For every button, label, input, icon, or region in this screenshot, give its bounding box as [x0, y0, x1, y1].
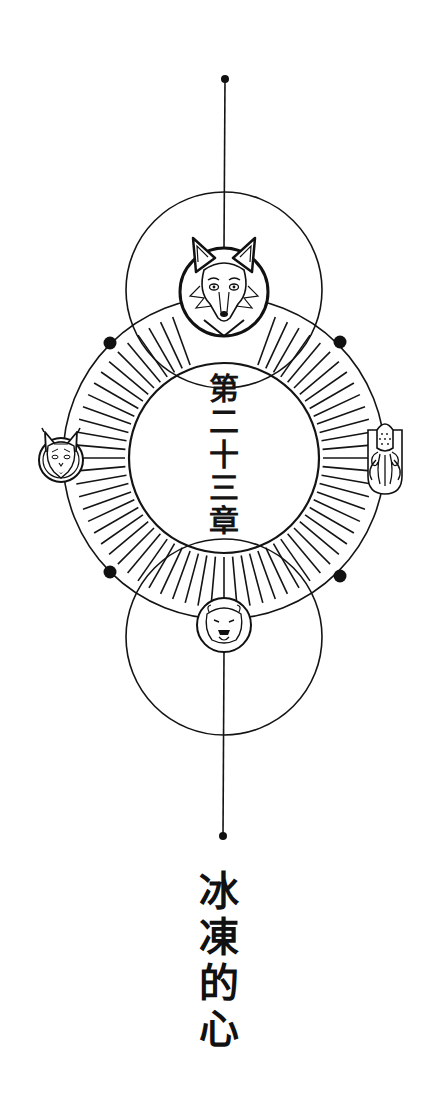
dot-lower-right: [334, 570, 347, 583]
chapter-label: 第 二 十 三 章: [204, 372, 244, 537]
top-axis-line: [224, 79, 225, 248]
squid-icon: [368, 424, 402, 494]
title-char: 凍: [199, 914, 239, 960]
dot-upper-right: [334, 336, 347, 349]
dot-lower-left: [104, 566, 117, 579]
chapter-char: 三: [209, 471, 239, 504]
chapter-char: 章: [209, 504, 239, 537]
fox-icon: [180, 238, 268, 336]
title-char: 冰: [199, 868, 239, 914]
chapter-char: 十: [209, 438, 239, 471]
dot-upper-left: [104, 337, 117, 350]
title-char: 心: [199, 1006, 239, 1052]
polar-bear-icon: [197, 598, 251, 652]
dot-top: [221, 75, 229, 83]
chapter-title: 冰 凍 的 心: [189, 868, 249, 1052]
bottom-axis-line: [223, 652, 224, 836]
chapter-char: 第: [209, 372, 239, 405]
title-char: 的: [199, 960, 239, 1006]
chapter-char: 二: [209, 405, 239, 438]
dot-bottom: [219, 832, 227, 840]
lynx-icon: [39, 428, 83, 482]
